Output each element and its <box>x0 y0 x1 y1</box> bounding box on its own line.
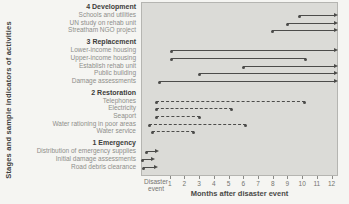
tick-label: 9 <box>280 180 294 187</box>
arrowhead-icon <box>334 79 338 83</box>
end-dot-marker <box>244 124 247 127</box>
activity-line <box>287 23 336 24</box>
tick-mark <box>258 176 259 179</box>
activity-label: Initial damage assessments <box>0 155 139 163</box>
activity-label: Water service <box>0 127 139 135</box>
tick-label: 11 <box>310 180 324 187</box>
tick-label: 7 <box>251 180 265 187</box>
activity-line <box>143 167 156 168</box>
activity-line <box>159 81 336 82</box>
start-dot-marker <box>158 81 161 84</box>
tick-label: 4 <box>207 180 221 187</box>
tick-mark <box>229 176 230 179</box>
tick-label: 10 <box>295 180 309 187</box>
tick-label: 8 <box>266 180 280 187</box>
tick-label: 2 <box>177 180 191 187</box>
x-axis-label: Months after disaster event <box>141 189 338 198</box>
activity-line <box>199 73 336 74</box>
activity-line <box>152 131 195 132</box>
start-dot-marker <box>145 151 148 154</box>
group-header: 4 Development <box>0 3 139 11</box>
tick-label: 5 <box>222 180 236 187</box>
start-dot-marker <box>155 116 158 119</box>
arrowhead-icon <box>155 149 159 153</box>
start-dot-marker <box>151 131 154 134</box>
tick-mark <box>332 176 333 179</box>
start-dot-marker <box>298 15 301 18</box>
start-dot-marker <box>155 108 158 111</box>
activity-line <box>171 58 306 59</box>
activity-label: Schools and utilities <box>0 11 139 19</box>
activity-line <box>171 50 336 51</box>
arrowhead-icon <box>334 21 338 25</box>
activity-line <box>156 108 233 109</box>
activity-label: UN study on rehab unit <box>0 19 139 27</box>
group-header: 2 Restoration <box>0 89 139 97</box>
activity-label: Electricity <box>0 104 139 112</box>
activity-label: Public building <box>0 69 139 77</box>
tick-mark <box>273 176 274 179</box>
activity-label: Seaport <box>0 112 139 120</box>
end-dot-marker <box>303 101 306 104</box>
activity-label: Establish rehab unit <box>0 62 139 70</box>
arrowhead-icon <box>154 165 158 169</box>
activity-label: Road debris clearance <box>0 163 139 171</box>
tick-mark <box>287 176 288 179</box>
activity-line <box>243 66 336 67</box>
tick-mark <box>199 176 200 179</box>
activity-label: Distribution of emergency supplies <box>0 147 139 155</box>
activity-label: Lower-income housing <box>0 46 139 54</box>
end-dot-marker <box>192 131 195 134</box>
tick-mark <box>243 176 244 179</box>
activity-label: Upper-income housing <box>0 54 139 62</box>
activity-label: Water rationing in poor areas <box>0 120 139 128</box>
start-dot-marker <box>198 73 201 76</box>
end-dot-marker <box>198 116 201 119</box>
tick-label: 12 <box>325 180 339 187</box>
start-dot-marker <box>170 50 173 53</box>
start-dot-marker <box>271 30 274 33</box>
start-dot-marker <box>155 101 158 104</box>
activity-label: Streatham NGO project <box>0 26 139 34</box>
start-dot-marker <box>142 167 145 170</box>
end-dot-marker <box>304 58 307 61</box>
start-dot-marker <box>148 124 151 127</box>
start-dot-marker <box>286 23 289 26</box>
arrowhead-icon <box>334 28 338 32</box>
activity-line <box>272 30 335 31</box>
activity-line <box>156 101 305 102</box>
activity-line <box>149 124 246 125</box>
plot-area <box>141 2 338 176</box>
row-labels: 4 DevelopmentSchools and utilitiesUN stu… <box>0 2 139 170</box>
group-header: 3 Replacement <box>0 38 139 46</box>
disaster-recovery-chart: Stages and sample indicators of activiti… <box>0 0 349 204</box>
arrowhead-icon <box>334 13 338 17</box>
tick-mark <box>184 176 185 179</box>
tick-mark <box>317 176 318 179</box>
group-header: 1 Emergency <box>0 139 139 147</box>
activity-line <box>146 151 156 152</box>
tick-label: 3 <box>192 180 206 187</box>
start-dot-marker <box>170 58 173 61</box>
end-dot-marker <box>230 108 233 111</box>
tick-mark <box>214 176 215 179</box>
arrowhead-icon <box>334 48 338 52</box>
arrowhead-icon <box>151 157 155 161</box>
tick-label: 6 <box>236 180 250 187</box>
activity-line <box>142 159 153 160</box>
tick-mark <box>302 176 303 179</box>
arrowhead-icon <box>334 64 338 68</box>
activity-line <box>299 15 336 16</box>
activity-line <box>156 116 200 117</box>
activity-label: Damage assessments <box>0 77 139 85</box>
start-dot-marker <box>242 66 245 69</box>
arrowhead-icon <box>334 71 338 75</box>
start-dot-marker <box>141 159 144 162</box>
activity-label: Telephones <box>0 97 139 105</box>
